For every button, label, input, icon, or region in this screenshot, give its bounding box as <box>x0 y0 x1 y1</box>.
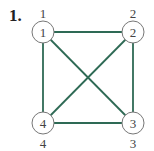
node-4: 44 <box>32 112 54 151</box>
graph-diagram: 11223344 <box>0 0 154 151</box>
node-3: 33 <box>122 112 144 151</box>
node-label: 1 <box>40 25 47 40</box>
node-label: 4 <box>40 116 47 131</box>
node-label: 2 <box>130 25 137 40</box>
node-label: 3 <box>130 116 137 131</box>
node-1: 11 <box>32 6 54 44</box>
node-2: 22 <box>122 6 144 44</box>
node-outer-label: 4 <box>40 136 47 151</box>
edges <box>43 32 133 123</box>
node-outer-label: 2 <box>130 6 137 21</box>
node-outer-label: 1 <box>40 6 47 21</box>
node-outer-label: 3 <box>130 136 137 151</box>
